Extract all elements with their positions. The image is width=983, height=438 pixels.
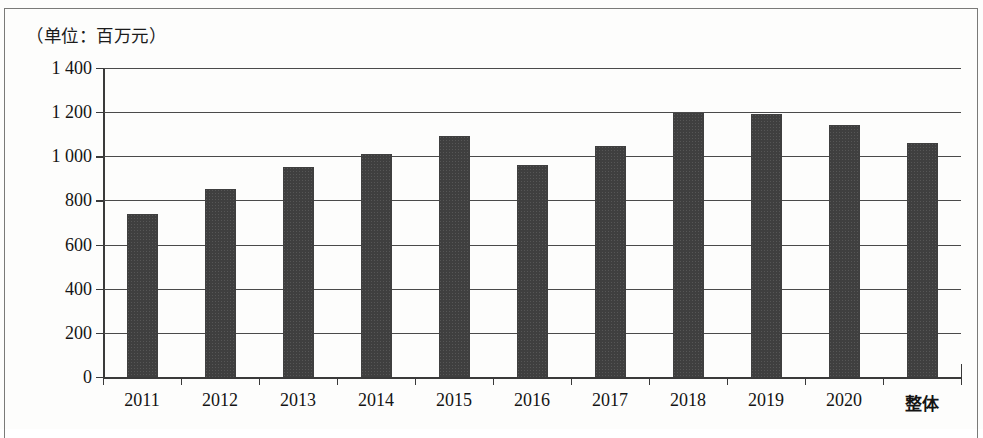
x-axis-tick <box>961 377 962 385</box>
y-axis-tick <box>96 68 104 69</box>
right-spine <box>961 364 962 378</box>
x-axis-tick <box>883 377 884 385</box>
x-axis-tick <box>649 377 650 385</box>
y-axis-label: 800 <box>65 190 92 211</box>
y-axis-label: 1 200 <box>52 102 93 123</box>
x-axis-tick <box>415 377 416 385</box>
bar-2012 <box>205 189 236 377</box>
x-axis-tick <box>805 377 806 385</box>
y-axis-tick <box>96 112 104 113</box>
bar-整体 <box>907 143 938 377</box>
bar-2015 <box>439 136 470 377</box>
bar-2011 <box>127 214 158 377</box>
x-axis-label: 2012 <box>202 390 238 411</box>
bar-2014 <box>361 154 392 377</box>
x-axis-label: 2020 <box>826 390 862 411</box>
y-axis-tick <box>96 333 104 334</box>
y-axis-label: 400 <box>65 278 92 299</box>
x-axis-label: 2018 <box>670 390 706 411</box>
plot-area: 02004006008001 0001 2001 400201120122013… <box>103 68 961 377</box>
x-axis-tick <box>103 377 104 385</box>
bar-2020 <box>829 125 860 377</box>
bar-2016 <box>517 165 548 377</box>
x-axis-label: 2017 <box>592 390 628 411</box>
x-axis-label: 2011 <box>124 390 159 411</box>
y-axis-label: 1 400 <box>52 58 93 79</box>
y-axis-tick <box>96 156 104 157</box>
gridline-y <box>103 112 961 113</box>
x-axis-tick <box>181 377 182 385</box>
x-axis-tick <box>259 377 260 385</box>
x-axis-tick <box>571 377 572 385</box>
x-axis-label: 2016 <box>514 390 550 411</box>
gridline-y <box>103 68 961 69</box>
x-axis-label: 整体 <box>905 390 939 415</box>
y-axis-label: 600 <box>65 234 92 255</box>
y-axis-tick <box>96 200 104 201</box>
x-axis-label: 2015 <box>436 390 472 411</box>
x-axis-label: 2013 <box>280 390 316 411</box>
bar-2019 <box>751 114 782 377</box>
x-axis-tick <box>337 377 338 385</box>
y-axis-line <box>103 68 105 377</box>
x-axis-line <box>103 377 961 379</box>
bar-2013 <box>283 167 314 377</box>
y-axis-label: 0 <box>83 367 92 388</box>
y-axis-label: 1 000 <box>52 146 93 167</box>
bar-2017 <box>595 146 626 377</box>
x-axis-label: 2019 <box>748 390 784 411</box>
y-axis-tick <box>96 245 104 246</box>
x-axis-tick <box>493 377 494 385</box>
x-axis-tick <box>727 377 728 385</box>
unit-note: （单位：百万元） <box>26 22 166 47</box>
bar-2018 <box>673 113 704 377</box>
y-axis-label: 200 <box>65 322 92 343</box>
x-axis-label: 2014 <box>358 390 394 411</box>
y-axis-tick <box>96 289 104 290</box>
